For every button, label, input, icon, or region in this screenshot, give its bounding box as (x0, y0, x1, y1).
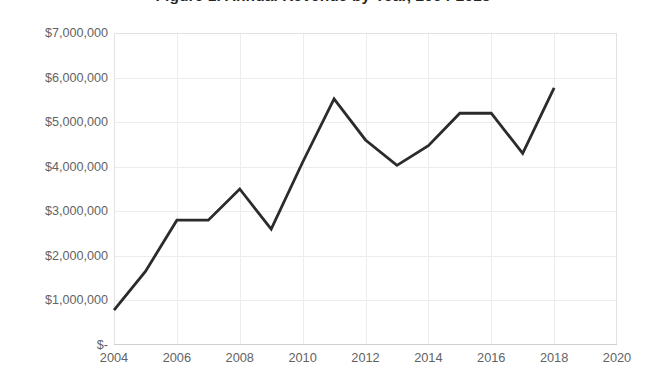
x-axis-tick-label: 2016 (456, 352, 526, 365)
x-axis-tick-label: 2010 (268, 352, 338, 365)
x-axis-tick-labels: 200420062008201020122014201620182020 (0, 0, 646, 386)
x-axis-tick-label: 2006 (142, 352, 212, 365)
x-axis-tick-label: 2008 (205, 352, 275, 365)
revenue-line-chart: Figure 1. Annual Revenue by Year, 2004-2… (0, 0, 646, 386)
x-axis-tick-label: 2012 (331, 352, 401, 365)
x-axis-tick-label: 2020 (582, 352, 646, 365)
x-axis-tick-label: 2014 (393, 352, 463, 365)
x-axis-tick-label: 2004 (79, 352, 149, 365)
x-axis-tick-label: 2018 (519, 352, 589, 365)
